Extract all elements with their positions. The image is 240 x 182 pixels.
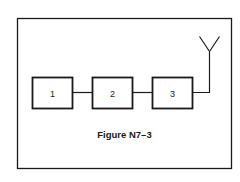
figure-caption: Figure N7–3	[97, 129, 151, 140]
block-1: 1	[33, 78, 73, 109]
block-3-label: 3	[170, 89, 175, 99]
antenna-icon	[200, 37, 220, 52]
connector-3-antenna	[193, 52, 210, 93]
block-1-label: 1	[50, 89, 55, 99]
block-2-label: 2	[110, 89, 115, 99]
block-3: 3	[153, 78, 193, 109]
block-2: 2	[93, 78, 133, 109]
block-diagram: 1 2 3 Figure N7–3	[0, 0, 240, 182]
